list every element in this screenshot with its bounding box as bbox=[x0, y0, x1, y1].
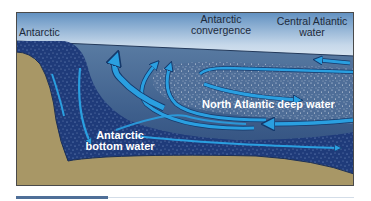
label-antarctic: Antarctic bbox=[19, 27, 60, 38]
label-central-atlantic-line2: water bbox=[270, 27, 354, 38]
label-antarctic-bottom-water: Antarctic bottom water bbox=[80, 130, 160, 152]
label-antarctic-bottom-line2: bottom water bbox=[80, 141, 160, 152]
label-antarctic-convergence-line2: convergence bbox=[184, 25, 258, 36]
footer-accent-bar bbox=[16, 196, 108, 199]
ocean-circulation-diagram: Antarctic Antarctic convergence Central … bbox=[16, 12, 354, 186]
label-north-atlantic-deep-water: North Atlantic deep water bbox=[202, 99, 335, 110]
footer-divider-line bbox=[108, 197, 354, 198]
label-antarctic-convergence: Antarctic convergence bbox=[184, 14, 258, 36]
label-central-atlantic-water: Central Atlantic water bbox=[270, 16, 354, 38]
